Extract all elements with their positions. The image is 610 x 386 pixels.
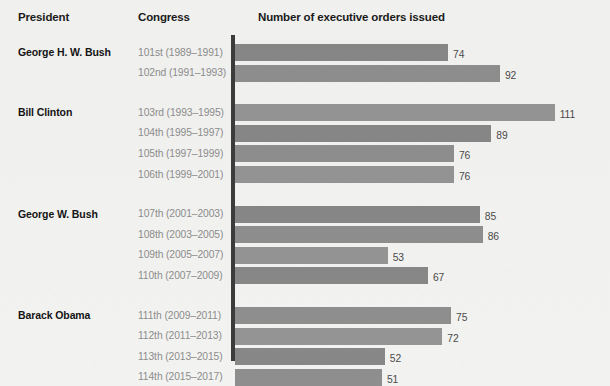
congress-label: 107th (2001–2003)	[138, 208, 223, 219]
bar	[235, 166, 454, 183]
bar-value-label: 92	[505, 70, 516, 81]
bar	[235, 206, 480, 223]
bar-value-label: 74	[453, 49, 464, 60]
congress-label: 109th (2005–2007)	[138, 249, 223, 260]
bar	[235, 44, 448, 61]
bar-value-label: 52	[390, 353, 401, 364]
bar-value-label: 111	[560, 109, 575, 120]
bar	[235, 125, 491, 142]
bar	[235, 65, 500, 82]
bar-value-label: 75	[456, 312, 467, 323]
bar-value-label: 72	[447, 333, 458, 344]
congress-label: 105th (1997–1999)	[138, 148, 223, 159]
bar	[235, 145, 454, 162]
congress-label: 111th (2009–2011)	[138, 310, 221, 321]
bar-value-label: 76	[459, 150, 470, 161]
congress-label: 101st (1989–1991)	[138, 47, 223, 58]
congress-label: 112th (2011–2013)	[138, 330, 222, 341]
bar-value-label: 53	[393, 252, 404, 263]
president-label: Barack Obama	[18, 309, 90, 321]
column-header-orders: Number of executive orders issued	[258, 11, 445, 23]
president-label: Bill Clinton	[18, 106, 72, 118]
bar	[235, 369, 382, 386]
congress-label: 106th (1999–2001)	[138, 169, 223, 180]
bar-value-label: 51	[387, 374, 398, 385]
congress-label: 103rd (1993–1995)	[138, 107, 224, 118]
president-label: George W. Bush	[18, 208, 98, 220]
bar	[235, 348, 385, 365]
column-headers: President Congress Number of executive o…	[0, 11, 610, 29]
bar-value-label: 86	[488, 231, 499, 242]
congress-label: 102nd (1991–1993)	[138, 67, 226, 78]
bar	[235, 267, 428, 284]
bar-value-label: 67	[433, 272, 444, 283]
congress-label: 110th (2007–2009)	[138, 270, 223, 281]
bar-value-label: 89	[496, 130, 507, 141]
bar	[235, 247, 388, 264]
bar	[235, 226, 483, 243]
bar-value-label: 85	[485, 211, 496, 222]
column-header-congress: Congress	[138, 11, 190, 23]
congress-label: 114th (2015–2017)	[138, 371, 223, 382]
congress-label: 108th (2003–2005)	[138, 229, 223, 240]
bar	[235, 328, 442, 345]
bar	[235, 307, 451, 324]
column-header-president: President	[18, 11, 69, 23]
congress-label: 104th (1995–1997)	[138, 127, 223, 138]
bar-value-label: 76	[459, 171, 470, 182]
president-label: George H. W. Bush	[18, 46, 111, 58]
congress-label: 113th (2013–2015)	[138, 351, 223, 362]
bar	[235, 104, 555, 121]
